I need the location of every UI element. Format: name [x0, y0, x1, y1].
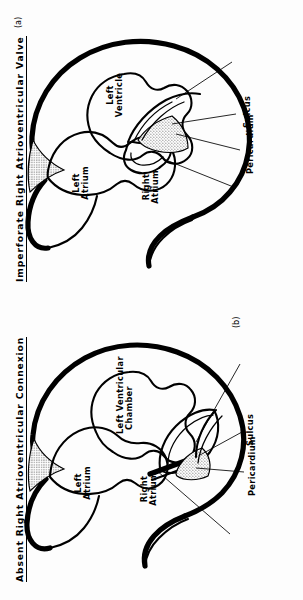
- label-left-ventricle: Left Ventricular Chamber: [116, 382, 135, 434]
- label-right-atrium-line2: Atrium: [151, 166, 160, 208]
- label-left-ventricle-line2: Chamber: [125, 382, 134, 434]
- label-left-atrium: Left Atrium: [72, 162, 91, 204]
- epicardial-outline: [27, 345, 244, 566]
- left-ventricle-cavity: [92, 372, 196, 463]
- label-left-ventricular-chamber: Left Ventricle: [106, 52, 125, 138]
- panel-a-heart-diagram: [0, 300, 303, 600]
- label-right-atrium: Right Atrium: [140, 468, 159, 510]
- label-left-atrium-line2: Atrium: [83, 462, 92, 504]
- label-left-atrium-line2: Atrium: [81, 162, 90, 204]
- right-atrium-wall: [48, 196, 192, 266]
- callout-sulcus: Sulcus: [243, 96, 252, 128]
- label-right-atrium: Right Atrium: [142, 166, 161, 208]
- figure-page: Imperforate Right Atrioventricular Valve…: [0, 0, 303, 600]
- callout-sulcus: Sulcus: [246, 414, 255, 446]
- panel-b-heart-diagram: [0, 0, 303, 300]
- right-atrium-wall: [50, 496, 188, 566]
- label-right-atrium-line2: Atrium: [149, 468, 158, 510]
- label-left-atrium: Left Atrium: [74, 462, 93, 504]
- label-lv-chamber-line2: Ventricle: [115, 52, 124, 138]
- figure-panel-a: Absent Right Atrioventricular Connexion …: [0, 300, 303, 600]
- figure-panel-b: Imperforate Right Atrioventricular Valve…: [0, 0, 303, 300]
